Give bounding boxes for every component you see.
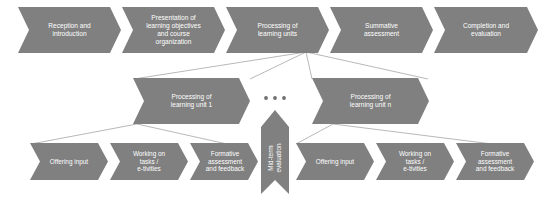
connectors-unit1-to-activities — [31, 124, 227, 144]
connector-units-to-unitn — [306, 52, 428, 79]
chevron-learning-unit-1[interactable] — [133, 78, 250, 124]
label-midterm-evaluation: Mid-term evaluation — [263, 123, 287, 193]
middle-row-chevrons — [133, 78, 429, 124]
chevron-working-tasks-n[interactable] — [376, 143, 454, 180]
ellipsis-dot-1 — [264, 96, 268, 100]
chevron-reception[interactable] — [18, 7, 121, 53]
ellipsis-dot-2 — [273, 96, 277, 100]
chevron-offering-input-1[interactable] — [30, 143, 108, 180]
ellipsis-dots — [264, 96, 286, 100]
bottom-left-chevrons — [30, 143, 258, 180]
chevron-completion[interactable] — [434, 7, 538, 53]
top-row-chevrons — [18, 7, 538, 53]
connectors-unitn-to-activities — [296, 124, 492, 144]
process-flow-diagram: Reception and introduction Presentation … — [0, 0, 545, 198]
chevron-summative[interactable] — [330, 7, 433, 53]
chevron-formative-n[interactable] — [456, 143, 534, 180]
connector-units-to-unit1 — [134, 52, 306, 79]
connector-unit1-right — [137, 124, 227, 144]
midterm-label-wrapper: Mid-term evaluation — [240, 128, 310, 188]
bottom-right-chevrons — [296, 143, 534, 180]
connector-unit1-left — [31, 124, 137, 144]
chevron-working-tasks-1[interactable] — [110, 143, 188, 180]
connector-units-to-unitn-left — [306, 52, 312, 79]
ellipsis-dot-3 — [282, 96, 286, 100]
chevron-learning-unit-n[interactable] — [312, 78, 429, 124]
connectors-top-to-middle — [134, 52, 428, 79]
chevron-presentation[interactable] — [122, 7, 225, 53]
connector-unitn-right — [333, 124, 492, 144]
chevron-processing-units[interactable] — [226, 7, 329, 53]
